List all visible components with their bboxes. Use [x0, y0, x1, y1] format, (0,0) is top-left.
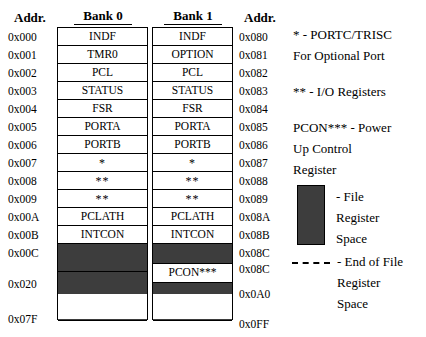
bank1-row-pcl: PCL — [153, 64, 232, 82]
address-left-0x003: 0x003 — [8, 85, 37, 97]
legend-file-register-space-line2: Register — [336, 211, 379, 224]
address-left-0x007: 0x007 — [8, 157, 37, 169]
bank1-label-status: STATUS — [172, 85, 213, 97]
bank1-label-portb: PORTB — [174, 139, 210, 151]
bank1-label-pcl: PCL — [182, 67, 203, 79]
bank1-label-porta: PORTA — [174, 121, 210, 133]
bank0-row-pclath: PCLATH — [58, 208, 147, 226]
bank1-row-pcon: PCON*** — [153, 264, 232, 283]
bank0-row-file-register-space-upper — [58, 244, 147, 272]
bank0-label-pcl: PCL — [92, 67, 113, 79]
bank1-label-io-1: ** — [186, 175, 200, 187]
address-right-0x0A0: 0x0A0 — [239, 288, 270, 300]
bank1-row-status: STATUS — [153, 82, 232, 100]
legend-note-pcon-line1: PCON*** - Power — [293, 121, 391, 134]
legend-end-of-file-register-space-line1: - End of File — [337, 255, 403, 268]
bank0-row-unimplemented — [58, 294, 147, 319]
address-left-0x001: 0x001 — [8, 49, 37, 61]
address-left-0x005: 0x005 — [8, 121, 37, 133]
bank0-row-io-2: ** — [58, 190, 147, 208]
legend-note-io-registers: ** - I/O Registers — [293, 85, 386, 98]
bank1-row-porta: PORTA — [153, 118, 232, 136]
bank0-label-pclath: PCLATH — [81, 211, 124, 223]
bank0-row-portc: * — [58, 154, 147, 172]
address-left-0x00C: 0x00C — [8, 247, 39, 259]
bank0-label-tmr0: TMR0 — [87, 49, 118, 61]
legend-file-register-space-swatch — [297, 185, 325, 245]
bank1-row-option: OPTION — [153, 46, 232, 64]
address-left-0x020: 0x020 — [8, 278, 37, 290]
bank0-label-status: STATUS — [82, 85, 123, 97]
bank0-row-porta: PORTA — [58, 118, 147, 136]
bank0-label-io-1: ** — [96, 175, 110, 187]
bank0-header: Bank 0 — [74, 8, 132, 25]
address-right-0x0FF: 0x0FF — [239, 318, 269, 330]
address-column-left-header: Addr. — [14, 10, 46, 26]
bank0-label-porta: PORTA — [84, 121, 120, 133]
bank1-label-pcon: PCON*** — [169, 267, 217, 279]
bank1-label-fsr: FSR — [182, 103, 202, 115]
address-right-0x08B: 0x08B — [239, 229, 270, 241]
bank1-label-pclath: PCLATH — [171, 211, 214, 223]
bank1-row-pclath: PCLATH — [153, 208, 232, 226]
bank1-label-intcon: INTCON — [171, 229, 214, 241]
bank1-row-fsr: FSR — [153, 100, 232, 118]
bank0-row-portb: PORTB — [58, 136, 147, 154]
legend-file-register-space-line3: Space — [336, 232, 367, 245]
bank1-row-io-2: ** — [153, 190, 232, 208]
bank0-label-fsr: FSR — [92, 103, 112, 115]
bank1-row-portc: * — [153, 154, 232, 172]
bank1-row-portb: PORTB — [153, 136, 232, 154]
legend-end-of-file-register-space-line2: Register — [337, 276, 380, 289]
address-right-0x080: 0x080 — [239, 31, 268, 43]
address-column-right-header: Addr. — [244, 10, 276, 26]
address-left-0x07F: 0x07F — [8, 313, 37, 325]
bank1-label-io-2: ** — [186, 193, 200, 205]
bank0-label-intcon: INTCON — [81, 229, 124, 241]
bank0-label-portc: * — [99, 157, 106, 169]
address-right-0x087: 0x087 — [239, 157, 268, 169]
address-left-0x006: 0x006 — [8, 139, 37, 151]
bank0-label-io-2: ** — [96, 193, 110, 205]
legend-note-portc-line1: * - PORTC/TRISC — [293, 28, 392, 41]
bank1-table: INDF OPTION PCL STATUS FSR PORTA PORTB *… — [152, 27, 233, 320]
address-left-0x00A: 0x00A — [8, 211, 39, 223]
legend-note-pcon-line3: Register — [293, 163, 336, 176]
bank1-label-portc: * — [189, 157, 196, 169]
address-right-0x083: 0x083 — [239, 85, 268, 97]
address-left-0x002: 0x002 — [8, 67, 37, 79]
bank0-row-indf: INDF — [58, 28, 147, 46]
bank0-row-io-1: ** — [58, 172, 147, 190]
address-left-0x000: 0x000 — [8, 31, 37, 43]
bank0-label-portb: PORTB — [84, 139, 120, 151]
bank1-row-file-register-space-upper — [153, 244, 232, 264]
address-right-0x089: 0x089 — [239, 193, 268, 205]
address-right-0x08A: 0x08A — [239, 211, 270, 223]
bank0-row-intcon: INTCON — [58, 226, 147, 244]
address-right-0x084: 0x084 — [239, 103, 268, 115]
legend-note-pcon-line2: Up Control — [293, 142, 352, 155]
address-right-0x088: 0x088 — [239, 175, 268, 187]
address-right-0x082: 0x082 — [239, 67, 268, 79]
bank1-header: Bank 1 — [164, 8, 222, 25]
legend-end-of-file-register-space-line3: Space — [337, 297, 368, 310]
bank1-row-io-1: ** — [153, 172, 232, 190]
bank1-row-unimplemented — [153, 294, 232, 319]
bank0-row-tmr0: TMR0 — [58, 46, 147, 64]
address-left-0x009: 0x009 — [8, 193, 37, 205]
address-right-0x086: 0x086 — [239, 139, 268, 151]
bank1-row-indf: INDF — [153, 28, 232, 46]
bank1-label-indf: INDF — [179, 31, 206, 43]
address-right-0x08C-upper: 0x08C — [239, 247, 270, 259]
bank0-label-indf: INDF — [89, 31, 116, 43]
address-left-0x004: 0x004 — [8, 103, 37, 115]
bank0-table: INDF TMR0 PCL STATUS FSR PORTA PORTB * *… — [57, 27, 148, 320]
bank1-label-option: OPTION — [171, 49, 213, 61]
bank0-row-status: STATUS — [58, 82, 147, 100]
address-left-0x008: 0x008 — [8, 175, 37, 187]
address-right-0x081: 0x081 — [239, 49, 268, 61]
address-right-0x08C-lower: 0x08C — [239, 263, 270, 275]
legend-end-of-file-register-space-dash — [292, 262, 330, 264]
address-left-0x00B: 0x00B — [8, 229, 39, 241]
bank0-row-fsr: FSR — [58, 100, 147, 118]
